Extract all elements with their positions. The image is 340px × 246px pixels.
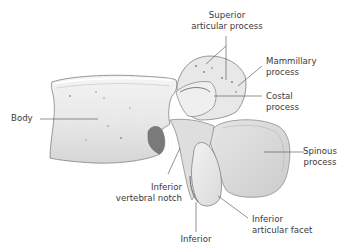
leader-inferior-articular-facet: [218, 196, 248, 218]
label-line: process: [266, 67, 316, 78]
label-costal-process: Costal process: [266, 91, 299, 113]
label-mammillary-process: Mammillary process: [266, 56, 316, 78]
label-line: vertebral notch: [106, 193, 182, 204]
label-inferior-articular-facet: Inferior articular facet: [252, 214, 312, 236]
label-line: process: [266, 102, 299, 113]
label-line: articular process: [189, 21, 265, 32]
vertebra-illustration: [0, 0, 340, 246]
label-line: Costal: [266, 91, 299, 102]
vertebra-diagram: Superior articular process Mammillary pr…: [0, 0, 340, 246]
label-line: process: [300, 157, 340, 168]
label-line: Spinous: [300, 146, 340, 157]
label-line: Superior: [189, 10, 265, 21]
superior-articular-process-shape: [176, 56, 246, 120]
label-line: Inferior: [252, 214, 312, 225]
label-body: Body: [11, 113, 33, 124]
label-spinous-process: Spinous process: [300, 146, 340, 168]
label-line: articular facet: [252, 225, 312, 236]
label-line: Mammillary: [266, 56, 316, 67]
label-inferior-vertebral-notch: Inferior vertebral notch: [106, 182, 182, 204]
label-superior-articular-process: Superior articular process: [189, 10, 265, 32]
label-inferior-articular-process: Inferior: [176, 234, 216, 245]
label-line: Inferior: [176, 234, 216, 245]
label-line: Inferior: [106, 182, 182, 193]
label-line: Body: [11, 113, 33, 124]
